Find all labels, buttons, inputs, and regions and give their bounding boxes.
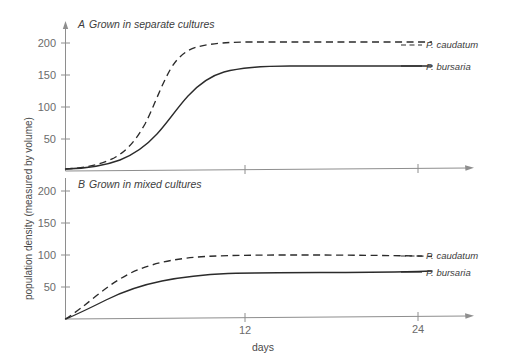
panel-b-x-axis-arrow [465,313,474,319]
panel-a-letter: A [77,18,85,30]
panel-b-title: Grown in mixed cultures [89,178,202,190]
panel-a-x-axis [66,168,469,171]
panel-b-legend-label-caudatum: P. caudatum [426,250,478,261]
panel-a-ytick-label-100: 100 [38,101,56,113]
panel-a-title: Grown in separate cultures [89,18,215,30]
panel-a-ytick-label-150: 150 [38,69,56,81]
population-growth-figure: population density (measured by volume) … [0,0,509,360]
panel-a-curve-caudatum [66,42,433,169]
panel-b-ytick-label-50: 50 [44,281,56,293]
panel-b-letter: B [78,178,85,190]
y-axis-title: population density (measured by volume) [23,117,34,300]
panel-a-x-axis-arrow [465,165,474,171]
panel-b-xtick-label-24: 24 [412,323,424,335]
panel-b-x-axis [66,316,469,319]
panel-a-legend-label-bursaria: P. bursaria [426,61,471,72]
panel-a-ytick-label-50: 50 [44,133,56,145]
panel-a-y-axis-arrow [63,21,68,29]
panel-b: 200 150 100 50 12 24 days B Grown in mix… [38,178,479,353]
panel-a: 200 150 100 50 A Grown in separate cultu… [38,18,479,174]
panel-b-curve-caudatum [66,255,433,319]
panel-b-ytick-label-200: 200 [38,185,56,197]
panel-a-ytick-label-200: 200 [38,37,56,49]
x-axis-title: days [252,341,274,353]
panel-b-curve-bursaria [66,271,433,319]
panel-b-ytick-label-150: 150 [38,217,56,229]
panel-b-ytick-label-100: 100 [38,249,56,261]
panel-b-legend-label-bursaria: P. bursaria [426,267,471,278]
panel-a-legend-label-caudatum: P. caudatum [426,39,478,50]
panel-b-xtick-label-12: 12 [239,324,251,336]
